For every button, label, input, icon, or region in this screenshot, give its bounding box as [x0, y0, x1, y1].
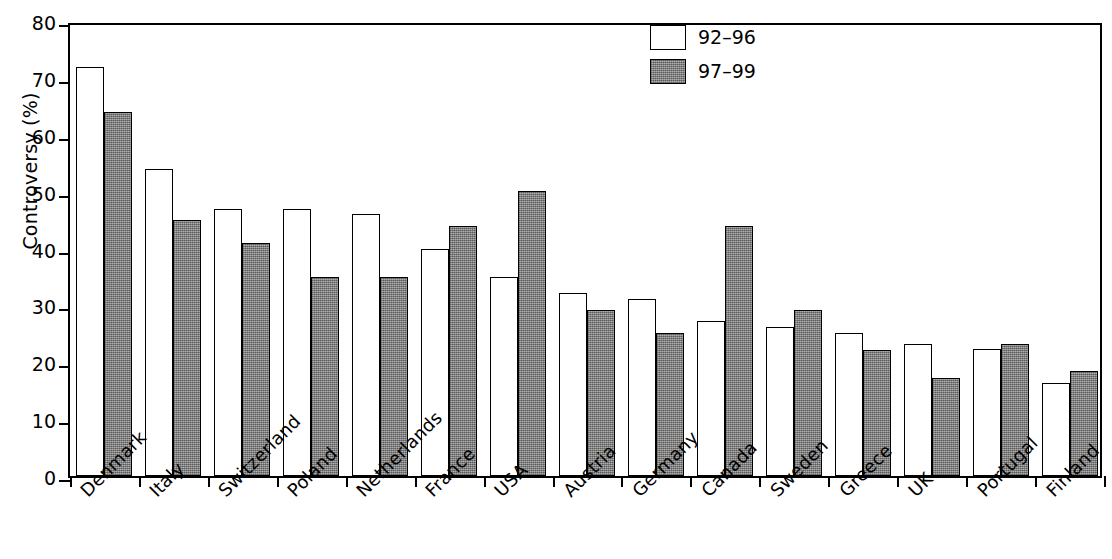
- x-axis-tick-mark: [1035, 476, 1037, 487]
- y-axis-tick-label: 70: [12, 70, 56, 89]
- y-axis-tick-mark: [59, 480, 70, 482]
- x-axis-tick-mark: [484, 476, 486, 487]
- bar: [766, 327, 794, 476]
- bar: [628, 299, 656, 476]
- x-axis-tick-mark: [346, 476, 348, 487]
- bar: [173, 220, 201, 476]
- x-axis-tick-mark: [966, 476, 968, 487]
- chart-legend: 92–9697–99: [650, 22, 840, 90]
- plot-frame: [68, 23, 1102, 478]
- bar: [449, 226, 477, 476]
- y-axis-tick-mark: [59, 139, 70, 141]
- bar: [932, 378, 960, 476]
- plot-area: [70, 25, 1100, 476]
- x-axis-tick-mark: [70, 476, 72, 487]
- x-axis-tick-mark: [415, 476, 417, 487]
- legend-label: 92–96: [698, 28, 756, 47]
- x-axis-tick-mark: [1104, 476, 1106, 487]
- legend-swatch: [650, 25, 686, 50]
- x-axis-tick-mark: [139, 476, 141, 487]
- y-axis-tick-mark: [59, 25, 70, 27]
- y-axis-tick-label: 60: [12, 127, 56, 146]
- bar: [352, 214, 380, 476]
- bar: [518, 191, 546, 476]
- legend-swatch: [650, 59, 686, 84]
- x-axis-tick-mark: [828, 476, 830, 487]
- y-axis-tick-mark: [59, 309, 70, 311]
- y-axis-tick-mark: [59, 423, 70, 425]
- legend-label: 97–99: [698, 62, 756, 81]
- legend-item: 97–99: [650, 56, 840, 86]
- bar: [104, 112, 132, 476]
- x-axis-tick-mark: [277, 476, 279, 487]
- x-axis-tick-mark: [208, 476, 210, 487]
- bar: [490, 277, 518, 476]
- y-axis-tick-labels: 01020304050607080: [0, 0, 56, 559]
- y-axis-tick-label: 10: [12, 412, 56, 431]
- y-axis-tick-label: 30: [12, 298, 56, 317]
- bar: [904, 344, 932, 476]
- bar: [697, 321, 725, 476]
- bar: [835, 333, 863, 476]
- bar: [973, 349, 1001, 476]
- x-axis-tick-mark: [897, 476, 899, 487]
- y-axis-tick-mark: [59, 196, 70, 198]
- legend-item: 92–96: [650, 22, 840, 52]
- bar: [76, 67, 104, 477]
- y-axis-tick-label: 80: [12, 14, 56, 33]
- x-axis-tick-mark: [759, 476, 761, 487]
- x-axis-tick-mark: [690, 476, 692, 487]
- bar-chart: Controversy (%) 01020304050607080 Denmar…: [0, 0, 1112, 559]
- y-axis-tick-label: 20: [12, 355, 56, 374]
- y-axis-tick-mark: [59, 253, 70, 255]
- x-axis-tick-mark: [621, 476, 623, 487]
- bar: [559, 293, 587, 476]
- bar: [145, 169, 173, 476]
- y-axis-tick-label: 50: [12, 184, 56, 203]
- y-axis-tick-mark: [59, 366, 70, 368]
- y-axis-tick-mark: [59, 82, 70, 84]
- y-axis-tick-label: 40: [12, 241, 56, 260]
- bar: [214, 209, 242, 476]
- x-axis-tick-mark: [553, 476, 555, 487]
- y-axis-tick-label: 0: [12, 469, 56, 488]
